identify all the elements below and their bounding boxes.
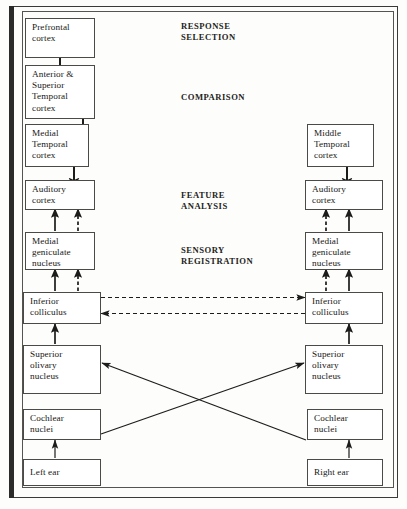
node-left-medial-temporal-cortex[interactable]: Medial Temporal cortex (25, 124, 89, 167)
node-right-inferior-colliculus[interactable]: Inferior colliculus (305, 292, 383, 324)
node-left-medial-geniculate-nucleus[interactable]: Medial geniculate nucleus (25, 232, 95, 270)
node-right-superior-olivary-nucleus[interactable]: Superior olivary nucleus (305, 345, 383, 394)
stage-label-comparison: COMPARISON (181, 92, 245, 103)
figure-canvas: RESPONSE SELECTION COMPARISON FEATURE AN… (0, 0, 407, 509)
node-left-prefrontal-cortex[interactable]: Prefrontal cortex (25, 18, 95, 58)
stage-label-sensory-registration: SENSORY REGISTRATION (181, 245, 253, 267)
stage-label-response-selection: RESPONSE SELECTION (181, 21, 236, 43)
page-frame-spine (9, 6, 14, 498)
node-left-auditory-cortex[interactable]: Auditory cortex (25, 180, 95, 210)
node-left-inferior-colliculus[interactable]: Inferior colliculus (23, 292, 101, 324)
node-left-ear[interactable]: Left ear (23, 459, 101, 486)
node-right-middle-temporal-cortex[interactable]: Middle Temporal cortex (307, 124, 374, 167)
node-right-ear[interactable]: Right ear (307, 459, 383, 486)
stage-label-feature-analysis: FEATURE ANALYSIS (181, 190, 228, 212)
node-right-cochlear-nuclei[interactable]: Cochlear nuclei (307, 409, 383, 440)
node-left-cochlear-nuclei[interactable]: Cochlear nuclei (23, 409, 101, 440)
cropped-caption-text (22, 0, 394, 4)
node-right-medial-geniculate-nucleus[interactable]: Medial geniculate nucleus (305, 232, 383, 270)
node-left-superior-olivary-nucleus[interactable]: Superior olivary nucleus (23, 345, 101, 394)
node-right-auditory-cortex[interactable]: Auditory cortex (305, 180, 383, 210)
node-left-anterior-superior-temporal-cortex[interactable]: Anterior & Superior Temporal cortex (25, 65, 95, 119)
